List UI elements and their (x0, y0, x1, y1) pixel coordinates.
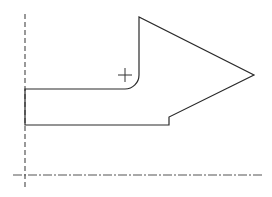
origin-crosshair-icon (118, 68, 132, 82)
drawing-canvas[interactable] (0, 0, 272, 197)
sketch-svg (0, 0, 272, 197)
arrow-profile-outline[interactable] (25, 17, 254, 125)
